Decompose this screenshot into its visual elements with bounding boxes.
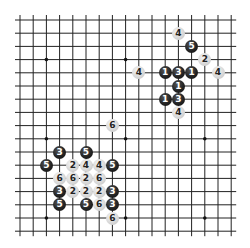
white-stone[interactable]: 4 xyxy=(80,159,93,172)
star-point-icon xyxy=(45,216,49,220)
stone-move-number: 1 xyxy=(175,82,181,91)
star-point-icon xyxy=(124,137,128,141)
stone-move-number: 5 xyxy=(188,42,194,51)
star-point-icon xyxy=(124,58,128,62)
stone-move-number: 5 xyxy=(83,200,89,209)
star-point-icon xyxy=(45,137,49,141)
black-stone[interactable]: 1 xyxy=(159,66,172,79)
stone-move-number: 4 xyxy=(96,161,102,170)
stone-move-number: 2 xyxy=(96,187,102,196)
white-stone[interactable]: 6 xyxy=(93,198,106,211)
white-stone[interactable]: 2 xyxy=(80,185,93,198)
stone-move-number: 1 xyxy=(162,95,168,104)
stone-move-number: 4 xyxy=(175,108,181,117)
stone-move-number: 2 xyxy=(70,187,76,196)
stone-move-number: 3 xyxy=(175,68,181,77)
white-stone[interactable]: 6 xyxy=(106,212,119,225)
black-stone[interactable]: 1 xyxy=(159,93,172,106)
stone-move-number: 4 xyxy=(136,68,142,77)
stone-move-number: 6 xyxy=(70,174,76,183)
white-stone[interactable]: 4 xyxy=(93,159,106,172)
black-stone[interactable]: 5 xyxy=(185,40,198,53)
stone-move-number: 3 xyxy=(56,187,62,196)
black-stone[interactable]: 5 xyxy=(40,159,53,172)
white-stone[interactable]: 2 xyxy=(93,185,106,198)
go-board[interactable]: 4524131411346355244566263222355636 xyxy=(0,0,250,248)
star-point-icon xyxy=(45,58,49,62)
stone-move-number: 6 xyxy=(96,174,102,183)
black-stone[interactable]: 1 xyxy=(172,80,185,93)
white-stone[interactable]: 4 xyxy=(172,106,185,119)
black-stone[interactable]: 5 xyxy=(80,146,93,159)
stone-move-number: 1 xyxy=(188,68,194,77)
star-point-icon xyxy=(203,137,207,141)
stone-move-number: 3 xyxy=(109,200,115,209)
stone-move-number: 6 xyxy=(56,174,62,183)
black-stone[interactable]: 5 xyxy=(106,159,119,172)
stone-move-number: 3 xyxy=(175,95,181,104)
white-stone[interactable]: 4 xyxy=(212,66,225,79)
stone-move-number: 1 xyxy=(162,68,168,77)
star-point-icon xyxy=(203,216,207,220)
white-stone[interactable]: 6 xyxy=(53,172,66,185)
black-stone[interactable]: 3 xyxy=(172,93,185,106)
stone-move-number: 4 xyxy=(215,68,221,77)
stone-move-number: 6 xyxy=(96,200,102,209)
black-stone[interactable]: 3 xyxy=(53,146,66,159)
stone-move-number: 5 xyxy=(109,161,115,170)
stone-move-number: 2 xyxy=(83,174,89,183)
stone-move-number: 5 xyxy=(43,161,49,170)
stone-move-number: 6 xyxy=(109,121,115,130)
white-stone[interactable]: 6 xyxy=(93,172,106,185)
star-point-icon xyxy=(124,216,128,220)
stone-move-number: 5 xyxy=(83,148,89,157)
white-stone[interactable]: 2 xyxy=(80,172,93,185)
board-grid xyxy=(0,0,250,248)
stone-move-number: 4 xyxy=(83,161,89,170)
stone-move-number: 2 xyxy=(70,161,76,170)
stone-move-number: 2 xyxy=(202,55,208,64)
stone-move-number: 2 xyxy=(83,187,89,196)
black-stone[interactable]: 3 xyxy=(106,185,119,198)
stone-move-number: 5 xyxy=(56,200,62,209)
black-stone[interactable]: 5 xyxy=(80,198,93,211)
stone-move-number: 3 xyxy=(109,187,115,196)
white-stone[interactable]: 6 xyxy=(106,119,119,132)
stone-move-number: 3 xyxy=(56,148,62,157)
white-stone[interactable]: 4 xyxy=(172,27,185,40)
stone-move-number: 6 xyxy=(109,214,115,223)
white-stone[interactable]: 2 xyxy=(66,159,79,172)
stone-move-number: 4 xyxy=(175,29,181,38)
